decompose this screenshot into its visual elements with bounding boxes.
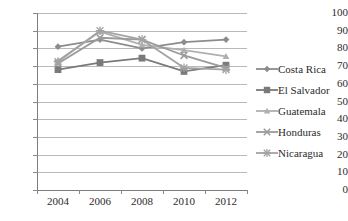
x-tick-label: 2006	[77, 196, 123, 207]
legend-marker-square-icon	[256, 83, 278, 97]
legend-item-el-salvador[interactable]: El Salvador	[256, 79, 348, 100]
y-tick-mark	[33, 172, 38, 173]
gridline	[37, 13, 247, 14]
line-chart: 0102030405060708090100 20042006200820102…	[0, 0, 348, 221]
y-tick-mark	[33, 155, 38, 156]
x-axis-line	[37, 190, 247, 191]
y-tick-label: 0	[318, 184, 348, 195]
x-tick-mark	[163, 190, 164, 194]
legend-marker-triangle-icon	[256, 104, 278, 118]
plot-area	[37, 13, 247, 190]
legend-item-honduras[interactable]: Honduras	[256, 121, 348, 142]
gridline	[37, 66, 247, 67]
gridline	[37, 84, 247, 85]
y-tick-label: 10	[318, 166, 348, 177]
x-tick-label: 2010	[161, 196, 207, 207]
y-tick-mark	[33, 66, 38, 67]
legend-item-nicaragua[interactable]: Nicaragua	[256, 142, 348, 163]
x-tick-mark	[79, 190, 80, 194]
y-tick-mark	[33, 119, 38, 120]
y-tick-mark	[33, 102, 38, 103]
y-tick-mark	[33, 13, 38, 14]
y-tick-label: 80	[318, 42, 348, 53]
y-tick-mark	[33, 84, 38, 85]
legend-item-guatemala[interactable]: Guatemala	[256, 100, 348, 121]
x-tick-label: 2004	[35, 196, 81, 207]
y-tick-mark	[33, 48, 38, 49]
legend-label: Guatemala	[278, 105, 326, 117]
gridline	[37, 137, 247, 138]
x-tick-label: 2012	[203, 196, 249, 207]
legend-marker-star-icon	[256, 146, 278, 160]
x-tick-mark	[121, 190, 122, 194]
gridline	[37, 31, 247, 32]
gridline	[37, 119, 247, 120]
x-tick-mark	[247, 190, 248, 194]
x-tick-label: 2008	[119, 196, 165, 207]
y-tick-label: 90	[318, 25, 348, 36]
y-tick-mark	[33, 137, 38, 138]
x-tick-mark	[37, 190, 38, 194]
legend: Costa RicaEl SalvadorGuatemalaHondurasNi…	[256, 58, 348, 163]
legend-label: El Salvador	[278, 84, 330, 96]
gridline	[37, 172, 247, 173]
legend-label: Honduras	[278, 126, 321, 138]
gridline	[37, 102, 247, 103]
y-tick-label: 100	[318, 7, 348, 18]
gridline	[37, 48, 247, 49]
x-tick-mark	[205, 190, 206, 194]
legend-label: Costa Rica	[278, 63, 326, 75]
legend-label: Nicaragua	[278, 147, 323, 159]
legend-marker-diamond-icon	[256, 62, 278, 76]
legend-item-costa-rica[interactable]: Costa Rica	[256, 58, 348, 79]
legend-marker-cross-icon	[256, 125, 278, 139]
gridline	[37, 155, 247, 156]
y-tick-mark	[33, 31, 38, 32]
